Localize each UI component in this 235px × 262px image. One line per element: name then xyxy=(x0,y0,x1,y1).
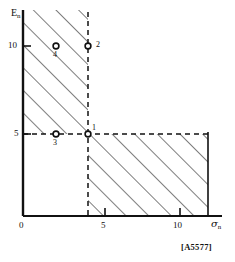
y-tick-label-10: 10 xyxy=(8,41,17,50)
point-label-2: 2 xyxy=(96,41,100,49)
point-label-3: 3 xyxy=(53,139,57,147)
point-label-4: 4 xyxy=(53,51,57,59)
y-tick-label-5: 5 xyxy=(14,129,19,138)
point-marker-2 xyxy=(85,43,91,49)
plot-svg xyxy=(0,0,235,262)
point-label-1: 1 xyxy=(92,124,96,132)
y-axis-label: En xyxy=(11,8,21,20)
upper-left-hatched-region xyxy=(23,10,88,134)
point-marker-3 xyxy=(53,131,59,137)
x-tick-label-0: 0 xyxy=(19,221,24,230)
x-axis-label-subscript: n xyxy=(218,223,222,231)
figure-plot: En σn 10 5 0 5 10 1 2 3 4 [A5577] xyxy=(0,0,235,262)
x-axis-label-main: σ xyxy=(211,218,218,229)
point-marker-1 xyxy=(85,131,91,137)
x-axis-label: σn xyxy=(211,219,221,231)
lower-right-hatched-region xyxy=(88,134,208,215)
x-tick-label-10: 10 xyxy=(173,221,182,230)
figure-caption: [A5577] xyxy=(181,243,212,252)
x-tick-label-5: 5 xyxy=(101,221,106,230)
y-axis-label-subscript: n xyxy=(17,12,21,20)
point-marker-4 xyxy=(53,43,59,49)
